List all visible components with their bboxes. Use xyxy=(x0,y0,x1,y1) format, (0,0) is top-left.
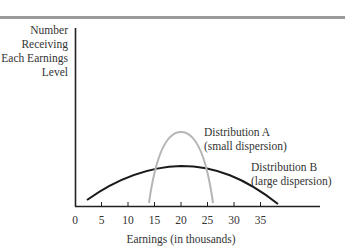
distribution-chart: Number Receiving Each Earnings Level 0 5… xyxy=(0,0,345,250)
svg-text:5: 5 xyxy=(99,214,105,226)
x-tick-labels: 0 5 10 15 20 25 30 35 xyxy=(72,214,266,226)
svg-text:30: 30 xyxy=(228,214,240,226)
distribution-b-curve xyxy=(87,166,278,204)
x-axis-label: Earnings (in thousands) xyxy=(126,233,235,246)
x-ticks xyxy=(102,202,261,206)
svg-text:Distribution A: Distribution A xyxy=(204,126,271,138)
y-axis-label: Number Receiving Each Earnings Level xyxy=(1,24,68,78)
svg-text:15: 15 xyxy=(149,214,161,226)
svg-text:Distribution B: Distribution B xyxy=(251,161,317,173)
svg-text:0: 0 xyxy=(72,214,78,226)
distribution-b-label: Distribution B (large dispersion) xyxy=(251,161,332,188)
svg-text:(large dispersion): (large dispersion) xyxy=(251,175,332,188)
distribution-a-label: Distribution A (small dispersion) xyxy=(204,126,287,153)
svg-text:Number: Number xyxy=(30,24,68,36)
svg-text:10: 10 xyxy=(122,214,134,226)
svg-text:Level: Level xyxy=(42,66,68,78)
svg-text:20: 20 xyxy=(175,214,187,226)
svg-text:25: 25 xyxy=(202,214,214,226)
svg-text:(small dispersion): (small dispersion) xyxy=(204,140,287,153)
svg-text:Each Earnings: Each Earnings xyxy=(1,52,68,65)
svg-text:Receiving: Receiving xyxy=(21,38,68,51)
svg-text:35: 35 xyxy=(255,214,267,226)
